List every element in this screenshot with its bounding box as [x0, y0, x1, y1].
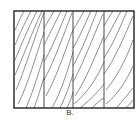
strip-dividers [44, 11, 104, 108]
figure-caption: B. [0, 108, 140, 117]
wood-grain-diagram [0, 0, 140, 125]
grain-lines [15, 11, 133, 108]
